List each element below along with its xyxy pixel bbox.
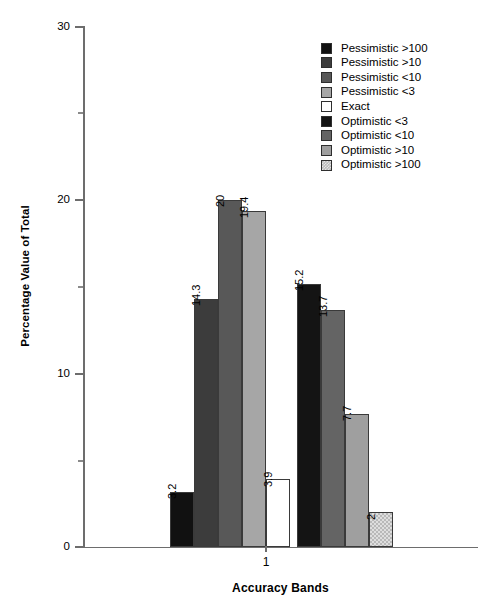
- bar-chart: Percentage Value of Total 30 20 10 0 3.2…: [0, 0, 494, 610]
- x-category-label-1: 1: [236, 555, 296, 569]
- y-tick-major-0: [75, 546, 83, 548]
- bar-optimistic-gt10: [345, 414, 369, 548]
- legend-item-exact[interactable]: Exact: [321, 99, 428, 114]
- legend-swatch-icon: [321, 72, 332, 83]
- legend-item-pessimistic-lt3[interactable]: Pessimistic <3: [321, 85, 428, 100]
- bar-optimistic-lt10: [321, 310, 345, 548]
- legend-swatch-icon: [321, 43, 332, 54]
- bar-value-label-19.4: 19.4: [239, 197, 250, 218]
- bar-value-label-7.7: 7.7: [342, 406, 353, 421]
- legend-item-optimistic-lt3[interactable]: Optimistic <3: [321, 114, 428, 129]
- bar-value-label-3.9: 3.9: [263, 472, 274, 487]
- legend-swatch-icon: [321, 130, 332, 141]
- legend-swatch-icon: [321, 145, 332, 156]
- legend-item-pessimistic-gt100[interactable]: Pessimistic >100: [321, 41, 428, 56]
- legend-item-label: Exact: [341, 101, 370, 113]
- legend-swatch-icon: [321, 116, 332, 127]
- legend-swatch-icon: [321, 101, 332, 112]
- legend-item-label: Optimistic <3: [341, 116, 408, 128]
- legend-item-label: Pessimistic >100: [341, 43, 428, 55]
- y-tick-major-20: [75, 199, 83, 201]
- y-tick-label-10: 10: [30, 368, 70, 380]
- bar-exact: [266, 479, 290, 547]
- bar-pessimistic-gt100: [170, 492, 194, 548]
- legend-item-pessimistic-lt10[interactable]: Pessimistic <10: [321, 70, 428, 85]
- y-tick-major-10: [75, 373, 83, 375]
- legend-item-label: Optimistic >100: [341, 159, 421, 171]
- bar-value-label-20: 20: [215, 195, 226, 207]
- legend: Pessimistic >100 Pessimistic >10 Pessimi…: [321, 41, 428, 172]
- bar-pessimistic-lt10: [218, 200, 242, 547]
- legend-item-optimistic-lt10[interactable]: Optimistic <10: [321, 129, 428, 144]
- bar-pessimistic-gt10: [194, 299, 218, 547]
- legend-swatch-icon: [321, 57, 332, 68]
- legend-item-optimistic-gt10[interactable]: Optimistic >10: [321, 143, 428, 158]
- legend-swatch-icon: [321, 160, 332, 171]
- bar-value-label-13.7: 13.7: [318, 296, 329, 317]
- legend-item-label: Optimistic >10: [341, 145, 414, 157]
- legend-item-label: Pessimistic <10: [341, 72, 421, 84]
- bar-pessimistic-lt3: [242, 211, 266, 547]
- bar-value-label-14.3: 14.3: [191, 285, 202, 306]
- bar-value-label-3.2: 3.2: [167, 484, 178, 499]
- y-tick-label-0: 0: [30, 541, 70, 553]
- y-tick-label-20: 20: [30, 194, 70, 206]
- bar-value-label-15.2: 15.2: [294, 270, 305, 291]
- x-axis-tick-1: [265, 546, 267, 552]
- y-tick-label-30: 30: [30, 21, 70, 33]
- legend-item-label: Pessimistic <3: [341, 86, 415, 98]
- legend-swatch-icon: [321, 87, 332, 98]
- legend-item-pessimistic-gt10[interactable]: Pessimistic >10: [321, 56, 428, 71]
- bar-value-label-2: 2: [366, 514, 377, 520]
- legend-item-optimistic-gt100[interactable]: Optimistic >100: [321, 158, 428, 173]
- legend-item-label: Optimistic <10: [341, 130, 414, 142]
- legend-item-label: Pessimistic >10: [341, 57, 421, 69]
- x-axis-title: Accuracy Bands: [83, 581, 478, 595]
- y-tick-major-30: [75, 26, 83, 28]
- bar-optimistic-lt3: [297, 284, 321, 548]
